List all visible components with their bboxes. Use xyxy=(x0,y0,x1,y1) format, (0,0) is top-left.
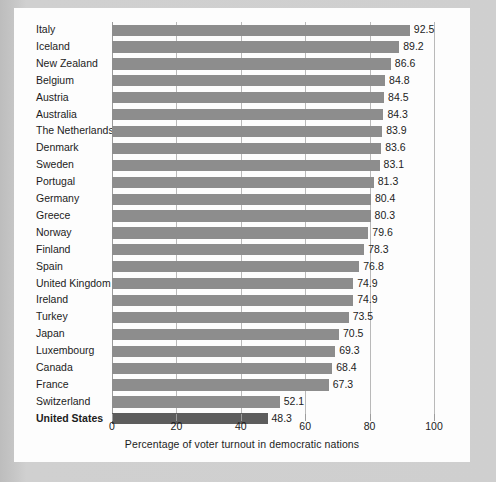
bar-row: 81.3 xyxy=(112,174,470,191)
category-label: Switzerland xyxy=(36,394,90,411)
bar[interactable] xyxy=(112,109,383,120)
bar[interactable] xyxy=(112,379,329,390)
category-label: Sweden xyxy=(36,157,74,174)
bar-row: 84.5 xyxy=(112,90,470,107)
bar[interactable] xyxy=(112,126,382,137)
bar-value-label: 80.3 xyxy=(375,209,395,222)
bar[interactable] xyxy=(112,295,353,306)
bar-row: 76.8 xyxy=(112,259,470,276)
page-background: ItalyIcelandNew ZealandBelgiumAustriaAus… xyxy=(0,0,496,482)
bar-value-label: 83.6 xyxy=(385,141,405,154)
bar[interactable] xyxy=(112,92,384,103)
bar-value-label: 78.3 xyxy=(368,243,388,256)
bar-row: 74.9 xyxy=(112,276,470,293)
bar-value-label: 83.9 xyxy=(386,124,406,137)
category-label: Australia xyxy=(36,107,77,124)
bar-row: 79.6 xyxy=(112,225,470,242)
bar-value-label: 70.5 xyxy=(343,327,363,340)
bar-row: 80.3 xyxy=(112,208,470,225)
bar-value-label: 81.3 xyxy=(378,175,398,188)
tick-label-40: 40 xyxy=(235,420,247,433)
bar[interactable] xyxy=(112,396,280,407)
bar-value-label: 67.3 xyxy=(333,378,353,391)
category-label: Spain xyxy=(36,259,63,276)
bar[interactable] xyxy=(112,194,371,205)
category-label: Germany xyxy=(36,191,79,208)
bar-value-label: 84.5 xyxy=(388,91,408,104)
bar-row: 83.9 xyxy=(112,123,470,140)
x-axis-ticks: 020406080100 xyxy=(112,414,434,436)
tick-label-0: 0 xyxy=(109,420,115,433)
tick-label-80: 80 xyxy=(364,420,376,433)
bar-row: 86.6 xyxy=(112,56,470,73)
bar-value-label: 83.1 xyxy=(384,158,404,171)
bar-row: 83.1 xyxy=(112,157,470,174)
category-label: Luxembourg xyxy=(36,343,94,360)
bar-row: 92.5 xyxy=(112,22,470,39)
bar[interactable] xyxy=(112,312,349,323)
bar-row: 68.4 xyxy=(112,360,470,377)
bar[interactable] xyxy=(112,58,391,69)
bar-value-label: 84.3 xyxy=(387,108,407,121)
bar-value-label: 76.8 xyxy=(363,260,383,273)
category-label: Belgium xyxy=(36,73,74,90)
x-axis-title: Percentage of voter turnout in democrati… xyxy=(14,438,470,450)
plot-area: 92.589.286.684.884.584.383.983.683.181.3… xyxy=(112,22,434,414)
bar[interactable] xyxy=(112,329,339,340)
category-label: Iceland xyxy=(36,39,70,56)
bar-row: 52.1 xyxy=(112,394,470,411)
tick-label-60: 60 xyxy=(299,420,311,433)
bar-row: 80.4 xyxy=(112,191,470,208)
bar-row: 69.3 xyxy=(112,343,470,360)
bar-row: 89.2 xyxy=(112,39,470,56)
bar-row: 70.5 xyxy=(112,326,470,343)
category-label: Denmark xyxy=(36,140,79,157)
bar-value-label: 86.6 xyxy=(395,57,415,70)
bar[interactable] xyxy=(112,278,353,289)
category-label: Norway xyxy=(36,225,72,242)
bar-value-label: 80.4 xyxy=(375,192,395,205)
bar-value-label: 92.5 xyxy=(414,23,434,36)
bar[interactable] xyxy=(112,25,410,36)
category-label: Finland xyxy=(36,242,70,259)
category-label: Japan xyxy=(36,326,65,343)
chart-panel: ItalyIcelandNew ZealandBelgiumAustriaAus… xyxy=(14,8,470,462)
bar[interactable] xyxy=(112,160,380,171)
bar[interactable] xyxy=(112,41,399,52)
bar[interactable] xyxy=(112,261,359,272)
bar-value-label: 73.5 xyxy=(353,310,373,323)
bar-rows: 92.589.286.684.884.584.383.983.683.181.3… xyxy=(112,22,434,414)
bar[interactable] xyxy=(112,227,368,238)
bar-value-label: 89.2 xyxy=(403,40,423,53)
bar-row: 74.9 xyxy=(112,292,470,309)
bar-row: 84.3 xyxy=(112,107,470,124)
bar[interactable] xyxy=(112,177,374,188)
bar-row: 84.8 xyxy=(112,73,470,90)
category-label: The Netherlands xyxy=(36,123,114,140)
category-label: France xyxy=(36,377,69,394)
bar-row: 83.6 xyxy=(112,140,470,157)
bar-value-label: 69.3 xyxy=(339,344,359,357)
category-label: Austria xyxy=(36,90,69,107)
bar[interactable] xyxy=(112,346,335,357)
category-label: Italy xyxy=(36,22,55,39)
category-axis-labels: ItalyIcelandNew ZealandBelgiumAustriaAus… xyxy=(14,22,112,414)
bar[interactable] xyxy=(112,244,364,255)
category-label: United States xyxy=(36,411,103,428)
category-label: New Zealand xyxy=(36,56,98,73)
bar[interactable] xyxy=(112,75,385,86)
category-label: Turkey xyxy=(36,309,68,326)
bar-value-label: 74.9 xyxy=(357,277,377,290)
bar[interactable] xyxy=(112,143,381,154)
bar[interactable] xyxy=(112,363,332,374)
tick-label-20: 20 xyxy=(171,420,183,433)
category-label: Portugal xyxy=(36,174,75,191)
bar[interactable] xyxy=(112,210,371,221)
bar-value-label: 74.9 xyxy=(357,293,377,306)
category-label: Ireland xyxy=(36,292,68,309)
tick-label-100: 100 xyxy=(425,420,443,433)
bar-value-label: 84.8 xyxy=(389,74,409,87)
category-label: Greece xyxy=(36,208,70,225)
category-label: Canada xyxy=(36,360,73,377)
bar-value-label: 52.1 xyxy=(284,395,304,408)
